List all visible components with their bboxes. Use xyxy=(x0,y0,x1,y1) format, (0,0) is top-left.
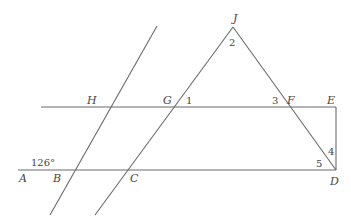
angle-label: 3 xyxy=(272,95,278,106)
angle-label: 1 xyxy=(186,95,192,106)
line-JD xyxy=(233,27,336,170)
geometry-diagram: JHGFEABCD 21345126° xyxy=(0,0,351,222)
angle-label: 126° xyxy=(31,157,55,168)
point-label-b: B xyxy=(52,172,61,185)
angle-label: 2 xyxy=(229,37,235,48)
line-JC xyxy=(95,27,233,215)
point-label-j: J xyxy=(231,12,238,25)
point-label-e: E xyxy=(326,94,335,107)
point-label-f: F xyxy=(286,94,295,107)
line-HB xyxy=(50,26,157,215)
angle-label: 5 xyxy=(316,158,322,169)
point-label-a: A xyxy=(18,172,27,185)
point-labels: JHGFEABCD xyxy=(18,12,339,188)
point-label-c: C xyxy=(130,172,139,185)
point-label-h: H xyxy=(86,94,97,107)
point-label-g: G xyxy=(163,94,172,107)
lines-group xyxy=(18,26,336,215)
angle-label: 4 xyxy=(328,146,334,157)
point-label-d: D xyxy=(329,175,339,188)
